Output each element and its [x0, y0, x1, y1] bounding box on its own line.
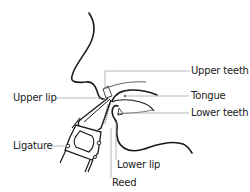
upper-lip-marker [99, 97, 101, 99]
label-ligature: Ligature [13, 141, 53, 151]
label-upper-teeth: Upper teeth [191, 66, 249, 76]
label-lower-teeth: Lower teeth [191, 108, 248, 118]
ligature-screw-2 [97, 141, 101, 145]
tongue-marker [124, 95, 126, 97]
ligature-shape [65, 125, 101, 160]
leader-upper-teeth [105, 71, 190, 89]
label-upper-lip: Upper lip [13, 93, 57, 103]
label-lower-lip: Lower lip [117, 160, 160, 170]
palate-outline [104, 82, 146, 89]
mouthpiece-body-left [60, 150, 66, 163]
label-reed: Reed [112, 178, 136, 188]
embouchure-diagram: Upper teeth Upper lip Tongue Lower teeth… [0, 0, 250, 192]
face-profile-outline [72, 13, 104, 99]
tongue-outline [112, 90, 157, 101]
label-tongue: Tongue [191, 91, 226, 101]
ligature-screw-3 [94, 156, 97, 159]
